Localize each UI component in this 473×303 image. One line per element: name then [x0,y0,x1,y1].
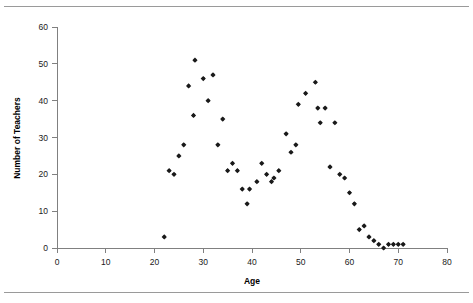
data-point-core [246,203,249,206]
x-tick-label: 10 [101,257,111,267]
data-point-core [295,144,298,147]
data-point-core [273,177,276,180]
data-point-core [248,188,251,191]
data-point-core [256,180,259,183]
x-tick-label: 30 [199,257,209,267]
data-point-core [317,107,320,110]
data-point-core [368,236,371,239]
data-points-group [162,58,406,251]
data-point-core [217,144,220,147]
data-point-core [265,173,268,176]
x-axis-title: Age [244,276,260,286]
y-axis-ticks: 0102030405060 [39,22,57,253]
data-point-core [260,162,263,165]
y-tick-label: 0 [43,243,48,253]
data-point-core [212,74,215,77]
data-point-core [397,243,400,246]
data-point-core [194,59,197,62]
data-point-core [304,92,307,95]
data-point-core [297,103,300,106]
data-point-core [373,239,376,242]
data-point-core [358,228,361,231]
data-point-core [343,177,346,180]
figure-container: 0102030405060 01020304050607080 Age Numb… [0,0,473,303]
data-point-core [192,114,195,117]
data-point-core [168,169,171,172]
data-point-core [178,155,181,158]
data-point-core [382,247,385,250]
data-point-core [226,169,229,172]
x-axis-ticks: 01020304050607080 [55,248,452,267]
data-point-core [236,169,239,172]
data-point-core [324,107,327,110]
data-point-core [278,169,281,172]
data-point-core [285,133,288,136]
data-point-core [402,243,405,246]
y-tick-label: 50 [39,59,49,69]
data-point-core [348,191,351,194]
data-point-core [319,121,322,124]
x-tick-label: 20 [150,257,160,267]
x-tick-label: 80 [442,257,452,267]
y-axis-title: Number of Teachers [12,97,22,179]
x-tick-label: 50 [296,257,306,267]
data-point-core [182,144,185,147]
data-point-core [338,173,341,176]
data-point-core [163,236,166,239]
data-point-core [241,188,244,191]
y-tick-label: 30 [39,133,49,143]
x-tick-label: 40 [247,257,257,267]
data-point-core [221,118,224,121]
data-point-core [314,81,317,84]
data-point-core [231,162,234,165]
data-point-core [290,151,293,154]
data-point-core [363,225,366,228]
data-point-core [173,173,176,176]
axis-group [57,27,447,248]
y-tick-label: 60 [39,22,49,32]
data-point-core [202,77,205,80]
y-tick-label: 20 [39,169,49,179]
data-point-core [387,243,390,246]
data-point-core [207,99,210,102]
data-point-core [353,203,356,206]
data-point-core [329,166,332,169]
scatter-plot: 0102030405060 01020304050607080 Age Numb… [0,0,473,303]
y-tick-label: 40 [39,96,49,106]
data-point-core [392,243,395,246]
x-tick-label: 0 [55,257,60,267]
data-point-core [187,85,190,88]
x-tick-label: 70 [394,257,404,267]
data-point-core [377,243,380,246]
x-tick-label: 60 [345,257,355,267]
data-point-core [334,121,337,124]
y-tick-label: 10 [39,206,49,216]
data-point-core [270,180,273,183]
